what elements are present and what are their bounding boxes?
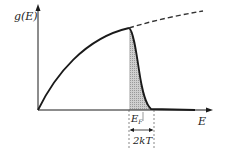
x-axis-label: E <box>197 115 206 128</box>
density-of-states-diagram: g(E) E EF 2kT <box>0 0 230 156</box>
fermi-energy-label: EF <box>130 113 143 125</box>
thermal-width-label: 2kT <box>132 135 153 146</box>
density-curve <box>38 28 129 110</box>
x-axis-arrow-icon <box>206 108 213 113</box>
occupied-states-shading <box>129 28 151 110</box>
width-arrow-left-icon <box>130 128 135 132</box>
dashed-extension <box>129 11 203 28</box>
y-axis-label: g(E) <box>14 10 38 23</box>
width-arrow-right-icon <box>149 128 154 132</box>
